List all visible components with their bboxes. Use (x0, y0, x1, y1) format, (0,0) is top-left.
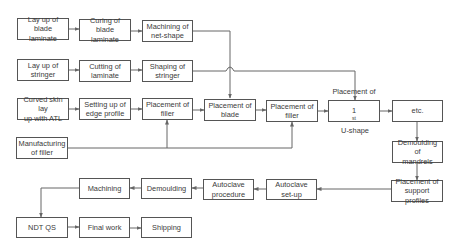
node-final-work: Final work (79, 217, 130, 238)
node-etc: etc. (392, 100, 443, 122)
node-placement-filler-2: Placement of filler (266, 100, 318, 122)
node-autoclave-setup: Autoclave set-up (266, 179, 317, 200)
node-machining: Machining (79, 178, 130, 199)
node-curing-blade: Curing of blade laminate (79, 19, 131, 41)
node-placement-blade: Placement of blade (204, 99, 256, 121)
node-manufacturing-filler: Manufacturing of filler (16, 137, 68, 159)
node-demoulding: Demoulding (141, 178, 192, 199)
node-machining-net-shape: Machining of net-shape (142, 20, 193, 42)
node-placement-filler-1: Placement of filler (142, 98, 193, 120)
node-layup-stringer: Lay up of stringer (17, 59, 69, 81)
node-shaping-stringer: Shaping of stringer (142, 60, 193, 82)
node-ndt-qs: NDT QS (16, 217, 68, 238)
node-cutting-laminate: Cutting of laminate (79, 60, 131, 82)
node-curved-skin-layup: Curved skin lay up with ATL (17, 98, 69, 120)
node-edge-profile: Setting up of edge profile (79, 98, 131, 120)
node-support-profiles: Placement of support profiles (391, 180, 443, 202)
node-shipping: Shipping (141, 217, 192, 238)
node-demoulding-mandrels: Demoulding of mandrels (392, 141, 443, 163)
node-autoclave-procedure: Autoclave procedure (203, 179, 254, 200)
node-placement-u-shape: Placement of1st U-shape (328, 100, 380, 122)
node-layup-blade: Lay up of blade laminate (17, 18, 69, 40)
